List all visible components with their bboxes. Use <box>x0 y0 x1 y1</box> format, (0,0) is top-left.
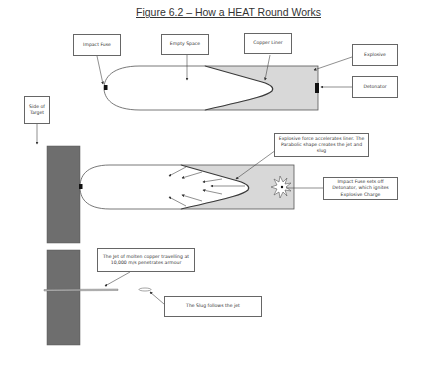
label-text: Side of Target <box>27 104 47 116</box>
impact-fuse-icon <box>79 184 83 189</box>
label-text: Impact Fuse <box>83 42 111 48</box>
target-plate <box>47 146 80 243</box>
round-at-rest <box>97 55 352 110</box>
label-copper-liner: Copper Liner <box>244 33 292 54</box>
nose-cone <box>104 66 205 110</box>
label-text: The Jet of molten copper travelling at 1… <box>100 254 192 266</box>
target-plate <box>47 250 80 345</box>
label-text: Impact Fuse sets off Detonator, which ig… <box>326 179 395 198</box>
label-empty-space: Empty Space <box>161 34 209 55</box>
label-text: Detonator <box>363 84 386 90</box>
label-explosive: Explosive <box>352 44 398 66</box>
label-explosive-force: Explosive force accelerates liner. The P… <box>274 133 369 157</box>
copper-slug <box>139 288 151 291</box>
nose-cone <box>80 165 181 209</box>
detonator-icon <box>315 83 319 93</box>
label-jet: The Jet of molten copper travelling at 1… <box>97 248 195 272</box>
label-side-of-target: Side of Target <box>24 96 50 124</box>
label-text: Copper Liner <box>253 40 283 46</box>
label-impact-fuse: Impact Fuse <box>73 34 121 56</box>
impact-fuse-icon <box>104 85 108 90</box>
label-text: Explosive <box>364 52 386 58</box>
copper-jet <box>44 289 118 291</box>
label-impact-fuse-sets-off: Impact Fuse sets off Detonator, which ig… <box>323 177 398 200</box>
label-detonator: Detonator <box>352 76 398 98</box>
label-text: The Slug follows the jet <box>186 303 240 309</box>
label-slug: The Slug follows the jet <box>164 296 262 317</box>
label-text: Explosive force accelerates liner. The P… <box>277 136 366 155</box>
label-text: Empty Space <box>170 41 200 47</box>
